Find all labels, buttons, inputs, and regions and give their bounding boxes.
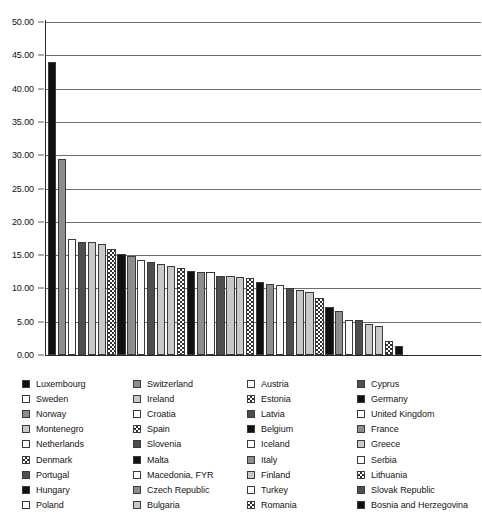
- legend-item: Denmark: [22, 452, 134, 467]
- legend-item: Greece: [357, 437, 482, 452]
- legend-item: Macedonia, FYR: [133, 467, 245, 482]
- legend-item: Romania: [247, 498, 355, 513]
- y-tick-mark: [38, 88, 44, 89]
- legend-swatch-icon: [133, 501, 141, 509]
- legend-label: Switzerland: [147, 379, 193, 389]
- legend-label: Slovak Republic: [371, 485, 435, 495]
- bar: [335, 311, 343, 355]
- legend-label: Germany: [371, 394, 408, 404]
- legend-swatch-icon: [22, 395, 30, 403]
- legend-item: Malta: [133, 452, 245, 467]
- y-tick-label: 0.00: [17, 350, 34, 360]
- bar: [177, 268, 185, 355]
- legend-label: Bosnia and Herzegovina: [371, 500, 468, 510]
- legend-label: Croatia: [147, 409, 176, 419]
- bar: [395, 346, 403, 355]
- legend-label: Portugal: [36, 470, 69, 480]
- legend-label: Malta: [147, 455, 169, 465]
- legend-item: Finland: [247, 467, 355, 482]
- legend-label: Sweden: [36, 394, 68, 404]
- bar: [137, 260, 145, 355]
- y-tick-mark: [38, 188, 44, 189]
- legend-swatch-icon: [247, 425, 255, 433]
- legend-item: Hungary: [22, 482, 134, 497]
- y-tick-label: 10.00: [12, 283, 34, 293]
- legend-label: France: [371, 424, 399, 434]
- bar: [88, 242, 96, 355]
- legend-item: Czech Republic: [133, 482, 245, 497]
- legend-swatch-icon: [133, 410, 141, 418]
- legend-swatch-icon: [357, 471, 365, 479]
- legend-label: Austria: [261, 379, 289, 389]
- y-tick-mark: [38, 255, 44, 256]
- y-tick-label: 5.00: [17, 317, 34, 327]
- y-tick-mark: [38, 22, 44, 23]
- legend-swatch-icon: [247, 501, 255, 509]
- bar: [355, 320, 363, 355]
- y-tick-mark: [38, 221, 44, 222]
- y-tick-mark: [38, 355, 44, 356]
- bar: [167, 266, 175, 355]
- bar: [98, 244, 106, 355]
- legend-swatch-icon: [133, 395, 141, 403]
- y-tick-label: 25.00: [12, 184, 34, 194]
- bar: [197, 272, 205, 355]
- bar: [206, 272, 214, 355]
- legend-label: Denmark: [36, 455, 72, 465]
- legend-label: Ireland: [147, 394, 174, 404]
- bar: [226, 276, 234, 355]
- legend-label: Montenegro: [36, 424, 84, 434]
- bar: [315, 298, 323, 355]
- legend-item: Spain: [133, 422, 245, 437]
- bar: [187, 271, 195, 355]
- legend-item: Luxembourg: [22, 376, 134, 391]
- legend-item: Slovak Republic: [357, 482, 482, 497]
- legend-swatch-icon: [357, 425, 365, 433]
- y-axis: 0.005.0010.0015.0020.0025.0030.0035.0040…: [0, 0, 44, 372]
- legend-swatch-icon: [357, 440, 365, 448]
- legend-column: LuxembourgSwedenNorwayMontenegroNetherla…: [22, 376, 134, 513]
- legend-swatch-icon: [133, 456, 141, 464]
- legend-label: Iceland: [261, 439, 290, 449]
- y-tick-label: 35.00: [12, 117, 34, 127]
- legend-swatch-icon: [247, 486, 255, 494]
- legend-item: Turkey: [247, 482, 355, 497]
- bar: [58, 159, 66, 355]
- legend-swatch-icon: [133, 471, 141, 479]
- legend-swatch-icon: [22, 486, 30, 494]
- legend-label: United Kingdom: [371, 409, 434, 419]
- legend-label: Netherlands: [36, 439, 84, 449]
- legend-label: Czech Republic: [147, 485, 209, 495]
- legend-swatch-icon: [247, 471, 255, 479]
- bar-chart-figure: 0.005.0010.0015.0020.0025.0030.0035.0040…: [0, 0, 482, 517]
- legend-item: Lithuania: [357, 467, 482, 482]
- bar: [286, 288, 294, 355]
- bar: [117, 254, 125, 355]
- legend-label: Italy: [261, 455, 277, 465]
- legend-item: Croatia: [133, 406, 245, 421]
- bar: [78, 242, 86, 355]
- legend-label: Turkey: [261, 485, 288, 495]
- legend-label: Belgium: [261, 424, 293, 434]
- legend-label: Norway: [36, 409, 66, 419]
- bar: [48, 62, 56, 355]
- legend-item: Portugal: [22, 467, 134, 482]
- legend-swatch-icon: [133, 486, 141, 494]
- legend-label: Cyprus: [371, 379, 399, 389]
- legend-label: Greece: [371, 439, 400, 449]
- bar: [385, 341, 393, 355]
- legend-item: Iceland: [247, 437, 355, 452]
- legend-item: Switzerland: [133, 376, 245, 391]
- legend-label: Latvia: [261, 409, 285, 419]
- legend-label: Lithuania: [371, 470, 407, 480]
- legend-item: Cyprus: [357, 376, 482, 391]
- bars-layer: [45, 0, 481, 372]
- legend-item: Poland: [22, 498, 134, 513]
- y-tick-label: 45.00: [12, 50, 34, 60]
- bar: [107, 249, 115, 355]
- bar: [236, 277, 244, 355]
- legend-swatch-icon: [247, 440, 255, 448]
- legend-label: Luxembourg: [36, 379, 86, 389]
- legend-column: CyprusGermanyUnited KingdomFranceGreeceS…: [357, 376, 482, 513]
- legend-swatch-icon: [247, 410, 255, 418]
